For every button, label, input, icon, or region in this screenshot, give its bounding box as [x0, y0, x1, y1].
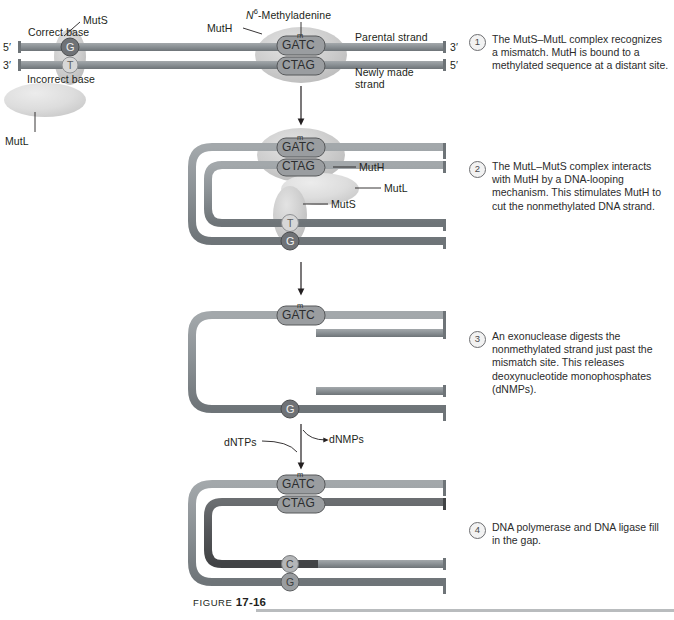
gatc-text-panel4: GATC	[282, 478, 315, 490]
repaired-strand-loop-panel4	[208, 502, 446, 564]
strand-cap	[443, 219, 446, 231]
muts-label-panel2: MutS	[331, 198, 356, 210]
mismatch-base-bottom-letter-panel2: G	[286, 235, 295, 247]
strand-cap	[18, 59, 21, 71]
five-prime-right-panel1: 5′	[450, 59, 458, 71]
dnmps-curved-arrow	[303, 430, 326, 440]
gatc-text-panel3: GATC	[282, 309, 315, 321]
step-callout-3: 3 An exonuclease digests the nonmethylat…	[469, 330, 669, 396]
mismatch-base-top-letter-panel2: T	[287, 217, 294, 229]
step-number-1: 1	[469, 34, 486, 51]
step-number-3: 3	[469, 331, 486, 348]
newly-made-segment-panel4	[318, 560, 446, 568]
figure-caption-rule	[256, 609, 674, 612]
dnmps-label: dNMPs	[329, 433, 364, 445]
strand-cap	[443, 558, 446, 570]
strand-cap	[443, 311, 446, 327]
digested-fragment-upper-panel3	[316, 329, 446, 337]
methyladenine-n: N	[246, 9, 254, 21]
digested-fragment-lower-panel3	[316, 387, 446, 395]
figure-caption: FIGURE 17-16	[193, 596, 266, 608]
corrected-base-top-letter-panel4: C	[286, 558, 294, 570]
step-callout-2: 2 The MutL–MutS complex interacts with M…	[469, 160, 669, 213]
muth-label-panel1: MutH	[207, 22, 233, 34]
panel-4-graphic	[192, 475, 446, 594]
muth-leader-line	[243, 28, 262, 34]
ctag-text-panel4: CTAG	[282, 497, 315, 509]
dntps-label: dNTPs	[224, 436, 257, 448]
strand-cap	[443, 41, 446, 53]
gatc-text-panel2: GATC	[282, 141, 315, 153]
muts-label-panel1: MutS	[83, 14, 108, 26]
gatc-text-panel1: GATC	[282, 39, 315, 51]
muth-label-panel2: MutH	[359, 161, 385, 173]
incorrect-base-label: Incorrect base	[27, 73, 95, 85]
panel-2-graphic	[192, 128, 446, 292]
step-callout-1: 1 The MutS–MutL complex recognizes a mis…	[469, 33, 669, 73]
figure-caption-prefix: FIGURE	[193, 597, 236, 608]
strand-cap	[443, 480, 446, 496]
strand-cap	[443, 327, 446, 339]
step-text-4: DNA polymerase and DNA ligase fill in th…	[492, 521, 669, 547]
figure-root: MutS MutL MutH Correct base Incorrect ba…	[0, 0, 674, 620]
newly-made-strand-label-line2: strand	[355, 78, 385, 90]
strand-cap	[443, 385, 446, 397]
dntps-curved-arrow	[262, 441, 297, 452]
mutl-blob-panel1	[4, 83, 86, 117]
mutl-label-panel1: MutL	[5, 135, 29, 147]
three-prime-left-panel1: 3′	[3, 59, 11, 71]
base-bottom-letter-panel3: G	[286, 403, 295, 415]
strand-cap	[443, 161, 446, 173]
ctag-text-panel2: CTAG	[282, 160, 315, 172]
step-text-3: An exonuclease digests the nonmethylated…	[492, 330, 669, 396]
five-prime-left-panel1: 5′	[3, 41, 11, 53]
strand-cap	[443, 143, 446, 159]
ctag-text-panel1: CTAG	[282, 59, 315, 71]
step-number-2: 2	[469, 161, 486, 178]
methyladenine-label: N6-Methyladenine	[246, 6, 331, 21]
three-prime-right-panel1: 3′	[450, 41, 458, 53]
step-text-1: The MutS–MutL complex recognizes a misma…	[492, 33, 669, 73]
parental-strand-panel1	[18, 43, 446, 51]
mutl-label-panel2: MutL	[384, 182, 408, 194]
strand-cap	[443, 578, 446, 594]
strand-cap	[443, 498, 446, 510]
strand-cap	[443, 237, 446, 249]
correct-base-letter-panel1: G	[66, 41, 75, 53]
correct-base-label: Correct base	[28, 26, 89, 38]
figure-caption-number: 17-16	[236, 596, 266, 608]
step-number-4: 4	[469, 522, 486, 539]
methyladenine-rest: -Methyladenine	[258, 9, 331, 21]
step-text-2: The MutL–MutS complex interacts with Mut…	[492, 160, 669, 213]
parental-strand-label: Parental strand	[355, 31, 428, 43]
incorrect-base-letter-panel1: T	[67, 59, 74, 71]
strand-cap	[443, 59, 446, 71]
corrected-base-bottom-letter-panel4: G	[286, 576, 294, 588]
strand-cap	[443, 405, 446, 421]
step-callout-4: 4 DNA polymerase and DNA ligase fill in …	[469, 521, 669, 547]
strand-cap	[18, 41, 21, 53]
newly-made-strand-label-line1: Newly made	[355, 66, 414, 78]
